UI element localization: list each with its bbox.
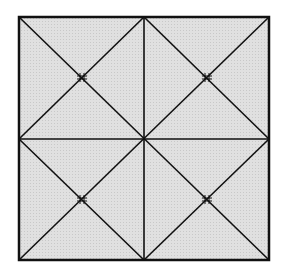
geometry-diagram: [0, 0, 281, 275]
